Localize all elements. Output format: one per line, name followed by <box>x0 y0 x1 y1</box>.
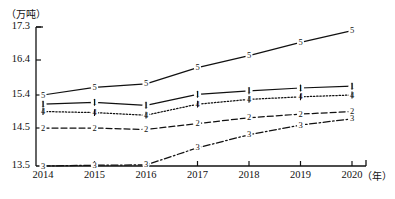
data-point-marker: 2 <box>298 109 302 119</box>
x-tick-label: 2016 <box>126 169 166 180</box>
y-tick-label: 14.5 <box>2 121 30 132</box>
data-point-marker: 3 <box>195 142 199 152</box>
x-tick-label: 2015 <box>75 169 115 180</box>
x-tick-label: 2019 <box>281 169 321 180</box>
data-point-marker: 5 <box>195 62 199 72</box>
data-point-marker: 2 <box>195 118 199 128</box>
data-point-marker: 5 <box>247 50 251 60</box>
x-tick-label: 2018 <box>229 169 269 180</box>
data-point-marker: 2 <box>92 123 96 133</box>
x-axis-ticks <box>95 161 353 166</box>
data-point-marker: 2 <box>247 112 251 122</box>
data-point-marker: 5 <box>350 25 354 35</box>
data-point-marker: 5 <box>144 78 148 88</box>
data-point-marker: 5 <box>92 82 96 92</box>
data-point-marker: 3 <box>144 159 148 169</box>
x-tick-label: 2017 <box>178 169 218 180</box>
y-tick-label: 15.4 <box>2 88 30 99</box>
x-tick-label: 2014 <box>23 169 63 180</box>
data-point-marker: 2 <box>41 123 45 133</box>
data-point-marker: 3 <box>247 129 251 139</box>
y-tick-label: 17.3 <box>2 20 30 31</box>
data-point-marker: 3 <box>350 113 354 123</box>
data-point-marker: 3 <box>298 120 302 130</box>
data-point-marker: 2 <box>144 124 148 134</box>
x-tick-label: 2020 <box>332 169 372 180</box>
line-chart: （万吨） （年） 1111111222222233333334444444555… <box>0 0 395 199</box>
data-point-marker: 5 <box>298 37 302 47</box>
series-2: 2222222 <box>39 106 355 134</box>
y-tick-label: 16.4 <box>2 53 30 64</box>
data-point-marker: 5 <box>41 90 45 100</box>
